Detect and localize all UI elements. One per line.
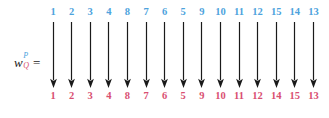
top-value: 13	[308, 6, 319, 18]
bottom-value: 3	[88, 90, 93, 102]
arrow-column: 33	[81, 6, 99, 102]
down-arrow-icon	[104, 18, 113, 90]
down-arrow-icon	[235, 18, 244, 90]
down-arrow-icon	[272, 18, 281, 90]
word-label: w P Q =	[14, 50, 40, 72]
bottom-value: 4	[106, 90, 111, 102]
arrow-column: 1313	[304, 6, 322, 102]
down-arrow-icon	[197, 18, 206, 90]
bottom-value: 8	[125, 90, 130, 102]
down-arrow-icon	[67, 18, 76, 90]
arrow-column: 1514	[267, 6, 285, 102]
arrow-column: 88	[118, 6, 136, 102]
top-value: 6	[162, 6, 167, 18]
down-arrow-icon	[216, 18, 225, 90]
top-value: 15	[271, 6, 282, 18]
top-value: 5	[181, 6, 186, 18]
top-value: 4	[106, 6, 111, 18]
bottom-value: 13	[308, 90, 319, 102]
arrow-column: 44	[100, 6, 118, 102]
bottom-value: 7	[143, 90, 148, 102]
bottom-value: 2	[69, 90, 74, 102]
down-arrow-icon	[49, 18, 58, 90]
top-value: 9	[199, 6, 204, 18]
down-arrow-icon	[160, 18, 169, 90]
top-value: 12	[252, 6, 263, 18]
arrow-column: 99	[193, 6, 211, 102]
down-arrow-icon	[253, 18, 262, 90]
arrow-column: 1212	[249, 6, 267, 102]
arrow-columns: 1122334488776655991010111112121514141513…	[45, 0, 329, 118]
bottom-value: 10	[215, 90, 226, 102]
subscript-q: Q	[23, 62, 29, 70]
arrow-column: 11	[44, 6, 62, 102]
arrow-column: 77	[137, 6, 155, 102]
bottom-value: 1	[50, 90, 55, 102]
permutation-arrow-diagram: w P Q = 11223344887766559910101111121215…	[0, 0, 329, 118]
arrow-column: 1415	[286, 6, 304, 102]
top-value: 11	[234, 6, 244, 18]
variable-w: w	[14, 56, 23, 69]
top-value: 7	[143, 6, 148, 18]
top-value: 1	[50, 6, 55, 18]
superscript-p: P	[23, 52, 28, 60]
top-value: 2	[69, 6, 74, 18]
down-arrow-icon	[179, 18, 188, 90]
arrow-column: 1111	[230, 6, 248, 102]
top-value: 3	[88, 6, 93, 18]
down-arrow-icon	[123, 18, 132, 90]
bottom-value: 14	[271, 90, 282, 102]
bottom-value: 5	[181, 90, 186, 102]
bottom-value: 9	[199, 90, 204, 102]
arrow-column: 1010	[211, 6, 229, 102]
bottom-value: 11	[234, 90, 244, 102]
top-value: 8	[125, 6, 130, 18]
arrow-column: 22	[63, 6, 81, 102]
top-value: 10	[215, 6, 226, 18]
down-arrow-icon	[86, 18, 95, 90]
down-arrow-icon	[142, 18, 151, 90]
down-arrow-icon	[309, 18, 318, 90]
bottom-value: 6	[162, 90, 167, 102]
script-stack: P Q	[23, 52, 29, 70]
arrow-column: 66	[156, 6, 174, 102]
bottom-value: 15	[290, 90, 301, 102]
top-value: 14	[290, 6, 301, 18]
arrow-column: 55	[174, 6, 192, 102]
bottom-value: 12	[252, 90, 263, 102]
equals-sign: =	[33, 56, 40, 69]
down-arrow-icon	[290, 18, 299, 90]
